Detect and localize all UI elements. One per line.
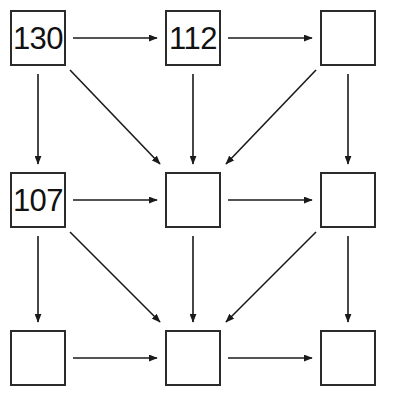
arrow-diagonal-down-left [226,232,316,322]
grid-cell-r2c0[interactable] [10,330,66,386]
grid-cell-r1c0[interactable]: 107 [10,172,66,228]
arrow-diagonal-down-right [70,232,160,322]
arrow-diagonal-down-left [226,70,316,164]
grid-cell-r2c1[interactable] [165,330,221,386]
grid-cell-label: 112 [169,23,217,54]
grid-cell-r1c2[interactable] [320,172,376,228]
grid-cell-label: 107 [13,185,63,216]
diagram-canvas: 130112107 [0,0,394,410]
grid-cell-r0c0[interactable]: 130 [10,10,66,66]
grid-cell-label: 130 [13,23,63,54]
grid-cell-r1c1[interactable] [165,172,221,228]
grid-cell-r0c2[interactable] [320,10,376,66]
grid-cell-r0c1[interactable]: 112 [165,10,221,66]
arrow-diagonal-down-right [70,70,160,164]
grid-cell-r2c2[interactable] [320,330,376,386]
